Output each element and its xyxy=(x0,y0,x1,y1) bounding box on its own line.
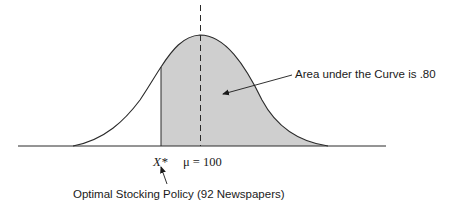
shaded-area xyxy=(161,35,328,146)
area-annotation: Area under the Curve is .80 xyxy=(295,69,436,81)
x-star-label: X* xyxy=(153,155,167,168)
policy-annotation: Optimal Stocking Policy (92 Newspapers) xyxy=(73,189,285,201)
mean-label: μ = 100 xyxy=(183,156,222,169)
policy-arrow xyxy=(161,167,167,184)
normal-curve-diagram xyxy=(0,0,458,213)
